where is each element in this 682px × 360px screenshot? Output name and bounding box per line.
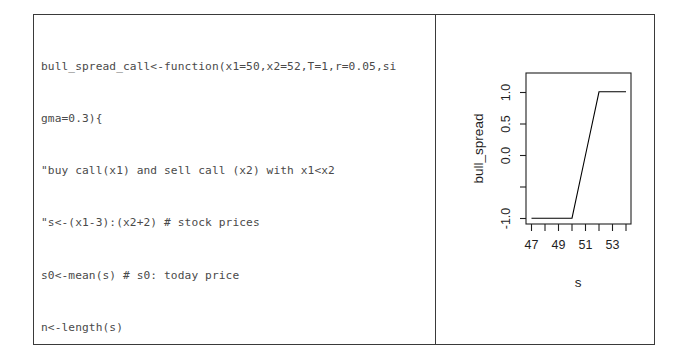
x-tick-label: 49 [552,238,566,252]
bull-spread-line-chart: -1.0 0.0 0.5 1.0 bull_spread 47 [436,15,656,344]
x-tick-label: 51 [579,238,593,252]
y-tick-label: 0.0 [499,147,513,164]
code-line: "s<-(x1-3):(x2+2) # stock prices [41,214,435,231]
x-tick-label: 47 [525,238,539,252]
code-panel: bull_spread_call<-function(x1=50,x2=52,T… [34,15,436,344]
code-line: bull_spread_call<-function(x1=50,x2=52,T… [41,58,435,75]
y-axis-ticks [520,93,526,219]
y-tick-label: 1.0 [499,84,513,101]
code-line: gma=0.3){ [41,110,435,127]
y-axis-tick-labels: -1.0 0.0 0.5 1.0 [499,84,513,230]
y-axis-label: bull_spread [471,114,486,184]
figure-frame: bull_spread_call<-function(x1=50,x2=52,T… [33,14,655,345]
y-tick-label: -1.0 [499,208,513,230]
plot-box [526,73,631,224]
bull-spread-data-line [532,92,627,218]
code-line: "buy call(x1) and sell call (x2) with x1… [41,162,435,179]
x-axis-label: s [575,275,582,290]
code-line: n<-length(s) [41,319,435,336]
plot-panel: -1.0 0.0 0.5 1.0 bull_spread 47 [436,15,656,344]
x-tick-label: 53 [606,238,620,252]
x-axis-tick-labels: 47 49 51 53 [525,238,620,252]
code-line: s0<-mean(s) # s0: today price [41,267,435,284]
code-listing: bull_spread_call<-function(x1=50,x2=52,T… [41,23,435,360]
x-axis-ticks [532,224,627,231]
y-tick-label: 0.5 [499,115,513,132]
